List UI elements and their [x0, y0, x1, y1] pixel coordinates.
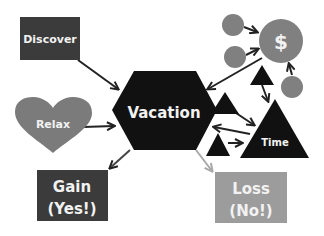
small-triangle-middle [211, 92, 239, 114]
arrow-midtri-to-time [236, 113, 254, 125]
arrow-smalltri-to-time [262, 85, 268, 101]
small-circle-3 [281, 76, 303, 98]
small-triangle-top [250, 65, 274, 85]
vacation-label: Vacation [127, 104, 200, 122]
relax-label: Relax [36, 118, 70, 131]
arrow-vacation-to-gain [110, 150, 130, 168]
arrow-time-to-vacation [214, 127, 250, 134]
dollar-icon: $ [274, 30, 288, 54]
gain-sublabel: (Yes!) [47, 200, 96, 218]
vacation-node: Vacation [112, 71, 217, 150]
arrow-relax-to-vacation [83, 126, 114, 127]
arrow-discover-to-vacation [78, 60, 118, 89]
arrow-circle1-to-money [244, 27, 257, 32]
relax-node: Relax [15, 97, 92, 153]
small-circle-2 [224, 46, 246, 68]
money-node: $ [259, 19, 303, 63]
discover-label: Discover [23, 33, 77, 46]
loss-label: Loss [232, 180, 270, 198]
gain-label: Gain [53, 178, 91, 196]
time-node: Time [240, 99, 309, 158]
diagram-canvas: Discover Relax Vacation Gain (Yes!) Loss… [0, 0, 324, 236]
discover-node: Discover [20, 17, 80, 60]
time-label: Time [261, 137, 289, 148]
arrow-circle2-to-money [246, 49, 258, 55]
loss-node: Loss (No!) [215, 172, 287, 223]
small-triangle-bottom [206, 133, 230, 156]
arrow-circle3-to-money [289, 64, 292, 75]
loss-sublabel: (No!) [229, 202, 272, 220]
small-circle-1 [222, 14, 244, 36]
gain-node: Gain (Yes!) [37, 170, 108, 221]
